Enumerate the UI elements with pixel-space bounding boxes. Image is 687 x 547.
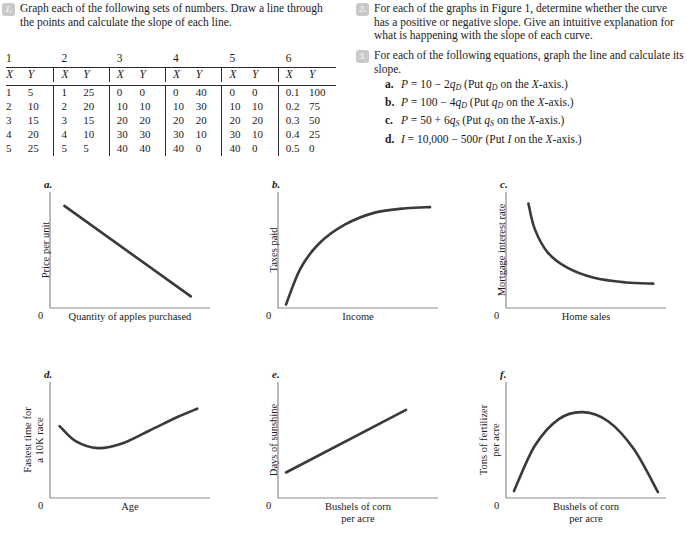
table-cell: 40 bbox=[173, 142, 196, 156]
table-cell: 10 bbox=[28, 100, 54, 114]
table-group-divider bbox=[166, 52, 173, 64]
table-cell: 40 bbox=[117, 142, 140, 156]
question-2: 2. For each of the graphs in Figure 1, d… bbox=[356, 2, 684, 43]
table-column-header: X bbox=[6, 68, 28, 83]
table-cell: 10 bbox=[139, 100, 165, 114]
table-group-divider bbox=[109, 114, 116, 128]
table-group-header: 1 bbox=[6, 52, 54, 64]
graph-y-axis-label: Mortgage interest rate bbox=[496, 192, 507, 308]
table-group-divider bbox=[109, 52, 116, 64]
table-cell: 20 bbox=[139, 114, 165, 128]
graph-x-axis-label: Age bbox=[50, 501, 210, 513]
table-cell: 0 bbox=[196, 142, 222, 156]
table-group-divider bbox=[54, 114, 61, 128]
graph-y-axis-label: Fastest time fora 10K race bbox=[22, 382, 46, 498]
table-group-divider bbox=[166, 114, 173, 128]
table-column-header: X bbox=[61, 68, 83, 83]
equation-list: a. P = 10 − 2qD (Put qD on the X-axis.) … bbox=[385, 77, 685, 146]
table-group-divider bbox=[222, 114, 229, 128]
graph-curve bbox=[64, 206, 190, 296]
table-cell: 30 bbox=[173, 128, 196, 142]
table-cell: 10 bbox=[229, 100, 252, 114]
table-cell: 0.4 bbox=[286, 128, 309, 142]
table-cell: 15 bbox=[28, 114, 54, 128]
table-group-divider bbox=[166, 86, 173, 101]
graph-a: a.0Price per unitQuantity of apples purc… bbox=[20, 178, 216, 340]
table-cell: 5 bbox=[28, 86, 54, 101]
table-cell: 30 bbox=[229, 128, 252, 142]
question-1-text: Graph each of the following sets of numb… bbox=[20, 2, 332, 29]
graph-origin-label: 0 bbox=[266, 310, 271, 321]
table-row: 2102201010103010100.275 bbox=[6, 100, 336, 114]
table-column-header: X bbox=[229, 68, 252, 83]
table-group-header: 4 bbox=[173, 52, 222, 64]
table-cell: 10 bbox=[252, 100, 278, 114]
table-cell: 2 bbox=[6, 100, 28, 114]
question-3-text: For each of the following equations, gra… bbox=[374, 49, 684, 76]
numbers-table: 123456XYXYXYXYXYXY1512500040000.11002102… bbox=[6, 52, 336, 156]
table-cell: 2 bbox=[61, 100, 83, 114]
table-cell: 0 bbox=[252, 86, 278, 101]
table-group-divider bbox=[278, 68, 285, 83]
table-cell: 30 bbox=[196, 100, 222, 114]
graph-panel-label: c. bbox=[500, 178, 508, 190]
table-cell: 20 bbox=[196, 114, 222, 128]
table-cell: 20 bbox=[252, 114, 278, 128]
table-cell: 0 bbox=[252, 142, 278, 156]
equation-label-a: a. bbox=[385, 77, 398, 91]
table-cell: 40 bbox=[139, 142, 165, 156]
table-cell: 5 bbox=[61, 142, 83, 156]
equation-item-b: b. P = 100 − 4qD (Put qD on the X-axis.) bbox=[385, 95, 685, 113]
equation-body-a: P = 10 − 2qD (Put qD on the X-axis.) bbox=[401, 78, 568, 90]
table-cell: 20 bbox=[28, 128, 54, 142]
table-group-divider bbox=[109, 100, 116, 114]
table-group-header: 2 bbox=[61, 52, 109, 64]
graph-x-axis-label: Bushels of cornper acre bbox=[278, 501, 438, 525]
table-row: 1512500040000.1100 bbox=[6, 86, 336, 101]
table-group-divider bbox=[278, 86, 285, 101]
graph-x-axis-label: Home sales bbox=[506, 311, 666, 323]
table-column-header: Y bbox=[28, 68, 54, 83]
table-column-header: Y bbox=[252, 68, 278, 83]
graph-origin-label: 0 bbox=[38, 310, 43, 321]
table-row: 5255540404004000.50 bbox=[6, 142, 336, 156]
equation-item-a: a. P = 10 − 2qD (Put qD on the X-axis.) bbox=[385, 77, 685, 95]
table-group-divider bbox=[54, 128, 61, 142]
graph-e: e.0Days of sunshineBushels of cornper ac… bbox=[248, 368, 444, 530]
table-group-divider bbox=[278, 100, 285, 114]
table-row: 4204103030301030100.425 bbox=[6, 128, 336, 142]
table-group-divider bbox=[222, 142, 229, 156]
table-group-header-row: 123456 bbox=[6, 52, 336, 64]
graph-curve bbox=[528, 204, 653, 284]
table-group-divider bbox=[54, 52, 61, 64]
table-cell: 25 bbox=[309, 128, 336, 142]
table-group-divider bbox=[109, 68, 116, 83]
table-cell: 25 bbox=[83, 86, 109, 101]
table-group-divider bbox=[222, 128, 229, 142]
table-cell: 50 bbox=[309, 114, 336, 128]
table-group-divider bbox=[109, 128, 116, 142]
graph-x-axis-label: Quantity of apples purchased bbox=[50, 311, 210, 323]
table-cell: 0.1 bbox=[286, 86, 309, 101]
table-cell: 0 bbox=[139, 86, 165, 101]
equation-label-d: d. bbox=[385, 132, 398, 146]
graph-panel-label: a. bbox=[44, 178, 52, 190]
table-group-divider bbox=[278, 52, 285, 64]
table-cell: 1 bbox=[6, 86, 28, 101]
graph-axes bbox=[278, 382, 438, 498]
table-cell: 20 bbox=[117, 114, 140, 128]
table-group-divider bbox=[166, 142, 173, 156]
graph-axes bbox=[506, 382, 666, 498]
question-3-number: 3. bbox=[356, 50, 369, 63]
graph-panel-label: d. bbox=[44, 368, 52, 380]
equation-item-d: d. I = 10,000 − 500r (Put I on the X-axi… bbox=[385, 132, 685, 146]
table-column-header: Y bbox=[196, 68, 222, 83]
table-cell: 1 bbox=[61, 86, 83, 101]
question-3: 3. For each of the following equations, … bbox=[356, 49, 684, 76]
table-cell: 0.3 bbox=[286, 114, 309, 128]
data-table: 123456XYXYXYXYXYXY1512500040000.11002102… bbox=[6, 52, 336, 156]
equation-body-c: P = 50 + 6qS (Put qS on the X-axis.) bbox=[401, 114, 564, 126]
table-column-header: Y bbox=[139, 68, 165, 83]
table-group-divider bbox=[278, 128, 285, 142]
graph-curve bbox=[286, 410, 406, 473]
